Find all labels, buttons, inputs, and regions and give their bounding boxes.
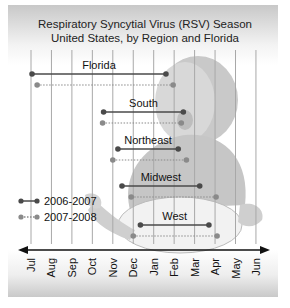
region-label: West [162,210,187,222]
month-tick-label: Aug [45,258,57,278]
month-tick-label: Jun [250,258,262,276]
bar-end-dot [175,146,181,152]
bar-end-dot [197,183,203,189]
month-tick-label: Mar [189,258,201,277]
bar-start-dot [110,157,116,163]
month-tick-label: Jul [25,258,37,272]
month-tick-labels: JulAugSepOctNovDecJanFebMarAprMayJun [25,258,262,279]
month-tick-label: Sep [66,258,78,278]
bar-end-dot [213,194,219,200]
legend-label: 2007-2008 [44,211,97,223]
month-tick-label: Oct [86,258,98,275]
bar-end-dot [179,120,185,126]
region-label: Midwest [141,171,181,183]
bar-start-dot [115,146,121,152]
region-label: Northeast [124,134,172,146]
region-label: Florida [82,59,117,71]
region-label: South [129,97,158,109]
legend: 2006-20072007-2008 [18,195,96,223]
bar-start-dot [29,71,35,77]
bar-end-dot [206,222,212,228]
bar-end-dot [170,82,176,88]
bar-start-dot [128,194,134,200]
bar-start-dot [119,183,125,189]
bar-start-dot [101,109,107,115]
month-tick-label: Dec [127,258,139,278]
bar-end-dot [184,157,190,163]
month-tick-label: Nov [107,258,119,278]
bar-end-dot [181,109,187,115]
chart-frame: Respiratory Syncytial Virus (RSV) Season… [0,0,290,308]
bar-end-dot [163,71,169,77]
chart-plot: FloridaSouthNortheastMidwestWest JulAugS… [0,0,290,308]
bar-start-dot [34,82,40,88]
legend-label: 2006-2007 [44,195,97,207]
bar-start-dot [138,222,144,228]
bar-end-dot [214,233,220,239]
bar-start-dot [100,120,106,126]
month-tick-label: Jan [148,258,160,276]
month-tick-label: Feb [168,258,180,277]
month-tick-label: Apr [209,258,221,275]
bar-start-dot [130,233,136,239]
month-tick-label: May [230,258,242,279]
